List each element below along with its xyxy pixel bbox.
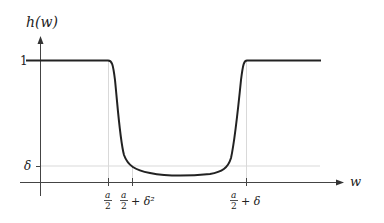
- x-axis-label: w: [350, 174, 361, 189]
- y-tick-label-1: 1: [20, 54, 28, 68]
- diagram-canvas: h(w) 1 δ w a 2 a 2 + δ² a 2 + δ: [0, 0, 384, 223]
- y-axis-label: h(w): [26, 14, 58, 30]
- y-tick-label-delta: δ: [24, 159, 31, 173]
- x-tick-label-a-half: a 2: [104, 190, 112, 211]
- axes: [20, 42, 338, 196]
- tick-suffix: + δ: [241, 195, 261, 208]
- fraction-numerator: a: [105, 190, 110, 200]
- x-tick-label-a-half-plus-delta: a 2 + δ: [230, 190, 261, 211]
- fraction-numerator: a: [231, 190, 236, 200]
- x-tick-label-a-half-plus-delta-sq: a 2 + δ²: [120, 190, 155, 211]
- x-axis-arrow-icon: [336, 180, 344, 186]
- fraction-denominator: 2: [105, 201, 111, 211]
- fraction-denominator: 2: [121, 201, 127, 211]
- function-curve: [26, 61, 321, 176]
- tick-suffix: + δ²: [131, 195, 155, 208]
- y-axis-arrow-icon: [38, 36, 44, 44]
- fraction-denominator: 2: [231, 201, 237, 211]
- ticks: [36, 61, 247, 187]
- guide-lines: [41, 60, 320, 182]
- fraction-numerator: a: [121, 190, 126, 200]
